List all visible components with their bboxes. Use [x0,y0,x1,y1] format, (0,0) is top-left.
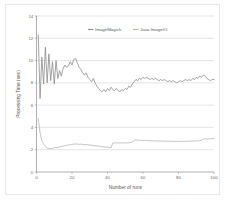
chart-container: 02468101214020406080100Number of runsPro… [0,0,226,201]
legend-label-0: ImageMagick [95,27,122,32]
series-line-0 [38,35,214,99]
y-axis-title: Processing Time (sec) [16,70,21,118]
y-tick-label: 10 [28,58,33,63]
y-tick-label: 8 [31,80,34,85]
x-axis-title: Number of runs [109,185,143,190]
y-tick-label: 4 [31,125,34,130]
x-tick-label: 20 [70,175,75,180]
y-tick-label: 0 [31,170,34,175]
x-tick-label: 100 [210,175,218,180]
y-tick-label: 2 [31,147,34,152]
x-tick-label: 60 [141,175,146,180]
series-line-1 [38,119,214,149]
x-tick-label: 40 [105,175,110,180]
x-tick-label: 80 [176,175,181,180]
y-tick-label: 12 [28,36,33,41]
y-tick-label: 6 [31,103,34,108]
x-tick-label: 0 [35,175,38,180]
line-chart: 02468101214020406080100Number of runsPro… [0,0,226,201]
y-tick-label: 14 [28,14,33,19]
legend-label-1: Java ImageIO [140,27,168,32]
